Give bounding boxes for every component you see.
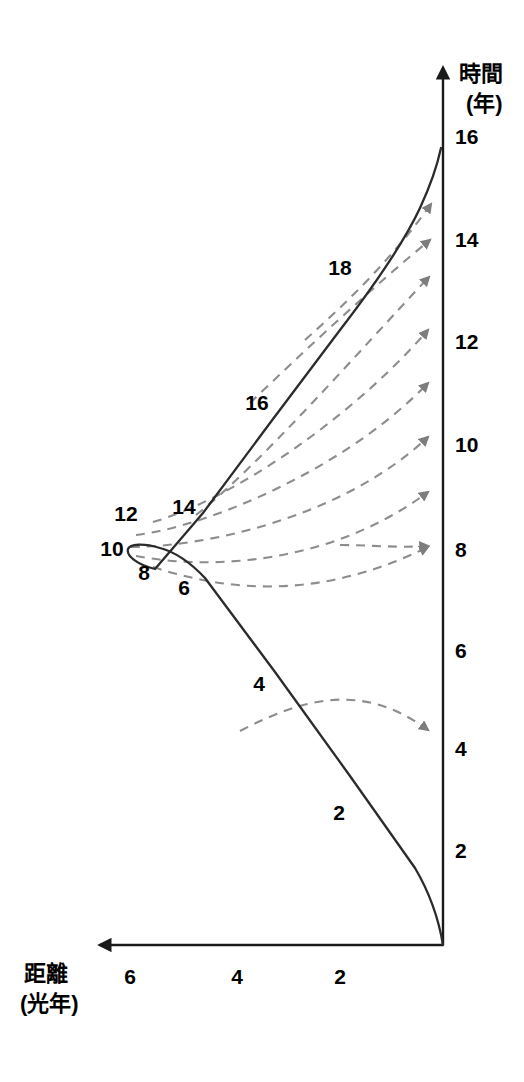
light-signal-8 bbox=[196, 277, 429, 515]
time-axis-tick-labels: 16 14 12 10 8 6 4 2 bbox=[455, 125, 479, 862]
distance-tick-2: 2 bbox=[334, 965, 346, 988]
time-tick-12: 12 bbox=[455, 330, 478, 353]
worldline-label-14: 14 bbox=[172, 495, 196, 518]
distance-axis-tick-labels: 6 4 2 bbox=[124, 965, 346, 988]
axis-titles: 時間 (年) 距離 (光年) bbox=[20, 61, 503, 1016]
time-axis-title-line1: 時間 bbox=[459, 61, 503, 86]
time-tick-10: 10 bbox=[455, 433, 478, 456]
worldline-label-12: 12 bbox=[114, 502, 137, 525]
time-tick-6: 6 bbox=[455, 639, 467, 662]
worldline-label-10: 10 bbox=[100, 537, 123, 560]
time-tick-16: 16 bbox=[455, 125, 478, 148]
worldline-label-8: 8 bbox=[138, 561, 150, 584]
worldline-label-2: 2 bbox=[333, 801, 345, 824]
axis-group bbox=[100, 68, 443, 945]
time-tick-2: 2 bbox=[455, 839, 467, 862]
light-signal-5 bbox=[131, 437, 428, 547]
distance-axis-title-line1: 距離 bbox=[24, 961, 68, 986]
time-tick-4: 4 bbox=[455, 737, 467, 760]
time-axis-title-line2: (年) bbox=[466, 91, 503, 116]
time-tick-8: 8 bbox=[455, 538, 467, 561]
worldline-label-16: 16 bbox=[245, 391, 268, 414]
worldline-label-6: 6 bbox=[178, 576, 190, 599]
spacetime-diagram: 16 14 12 10 8 6 4 2 6 4 2 時間 (年) 距離 (光年)… bbox=[0, 0, 524, 1082]
diagram-canvas: 16 14 12 10 8 6 4 2 6 4 2 時間 (年) 距離 (光年)… bbox=[0, 0, 524, 1082]
distance-tick-4: 4 bbox=[231, 965, 243, 988]
worldline-label-4: 4 bbox=[253, 672, 265, 695]
distance-tick-6: 6 bbox=[124, 965, 136, 988]
distance-axis-title-line2: (光年) bbox=[20, 991, 79, 1016]
time-tick-14: 14 bbox=[455, 228, 479, 251]
worldline-segment-labels: 2 4 6 8 10 12 14 16 18 bbox=[100, 256, 352, 824]
light-signal-1 bbox=[240, 700, 428, 731]
light-signal-2 bbox=[340, 545, 428, 547]
light-signal-group bbox=[131, 204, 431, 731]
worldline-label-18: 18 bbox=[328, 256, 352, 279]
